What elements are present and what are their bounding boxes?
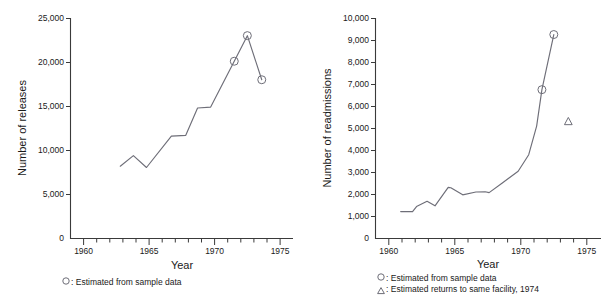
- releases-data-markers: [230, 32, 266, 84]
- readmissions-x-axis-title: Year: [477, 258, 500, 270]
- readmissions-y-tick-6000: 6,000: [348, 101, 370, 111]
- readmissions-y-tick-1000: 1,000: [348, 211, 370, 221]
- readmissions-y-tick-0: 0: [364, 233, 369, 243]
- circle-icon: [63, 278, 69, 284]
- readmissions-y-tick-8000: 8,000: [348, 57, 370, 67]
- releases-y-tick-marks: [66, 19, 71, 195]
- readmissions-axes: [376, 18, 602, 239]
- readmissions-chart-svg: Number of readmissions 10,000 9,000 8,00…: [305, 0, 610, 302]
- releases-x-tick-1970: 1970: [205, 246, 224, 256]
- readmissions-legend: : Estimated from sample data : Estimated…: [378, 273, 540, 294]
- chart-panel-readmissions: Number of readmissions 10,000 9,000 8,00…: [305, 0, 610, 302]
- releases-data-line: [120, 36, 261, 168]
- releases-x-tick-1960: 1960: [74, 246, 93, 256]
- readmissions-y-tick-7000: 7,000: [348, 79, 370, 89]
- readmissions-x-tick-marks: [389, 239, 587, 246]
- releases-y-tick-15000: 15,000: [38, 101, 64, 111]
- triangle-icon: [378, 288, 385, 294]
- releases-y-tick-5000: 5,000: [43, 189, 65, 199]
- readmissions-y-tick-5000: 5,000: [348, 123, 370, 133]
- readmissions-x-tick-1965: 1965: [445, 246, 464, 256]
- readmissions-x-tick-1960: 1960: [379, 246, 398, 256]
- readmissions-y-tick-10000: 10,000: [343, 13, 369, 23]
- circle-icon: [378, 274, 384, 280]
- readmissions-y-tick-9000: 9,000: [348, 35, 370, 45]
- readmissions-y-tick-4000: 4,000: [348, 145, 370, 155]
- releases-x-axis-title: Year: [171, 259, 194, 271]
- releases-y-tick-0: 0: [59, 233, 64, 243]
- readmissions-legend-entry-1: : Estimated from sample data: [386, 273, 497, 283]
- readmissions-y-tick-marks: [371, 19, 376, 217]
- releases-axes: [71, 18, 294, 239]
- releases-y-tick-20000: 20,000: [38, 57, 64, 67]
- chart-panel-releases: Number of releases 25,000 20,000 15,000 …: [0, 0, 305, 302]
- releases-legend: : Estimated from sample data: [63, 277, 182, 287]
- releases-x-tick-marks: [84, 239, 281, 246]
- releases-y-tick-25000: 25,000: [38, 13, 64, 23]
- figure-two-line-charts: Number of releases 25,000 20,000 15,000 …: [0, 0, 610, 302]
- releases-x-tick-1965: 1965: [140, 246, 159, 256]
- readmissions-data-markers: [538, 31, 572, 125]
- releases-chart-svg: Number of releases 25,000 20,000 15,000 …: [0, 0, 305, 302]
- releases-x-tick-1975: 1975: [271, 246, 290, 256]
- releases-y-tick-10000: 10,000: [38, 145, 64, 155]
- readmissions-y-axis-title: Number of readmissions: [321, 68, 333, 188]
- triangle-marker: [564, 117, 572, 124]
- readmissions-x-tick-1970: 1970: [511, 246, 530, 256]
- readmissions-data-line: [401, 35, 554, 212]
- readmissions-y-tick-3000: 3,000: [348, 167, 370, 177]
- readmissions-y-tick-2000: 2,000: [348, 189, 370, 199]
- readmissions-x-tick-1975: 1975: [577, 246, 596, 256]
- releases-legend-entry-1: : Estimated from sample data: [71, 277, 182, 287]
- releases-y-axis-title: Number of releases: [16, 80, 28, 176]
- readmissions-legend-entry-2: : Estimated returns to same facility, 19…: [386, 284, 539, 294]
